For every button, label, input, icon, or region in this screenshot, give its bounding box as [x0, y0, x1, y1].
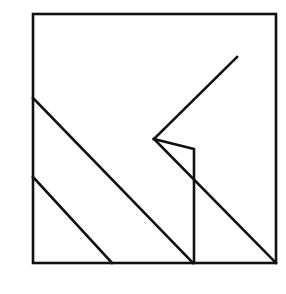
arrow-lower-diagonal — [154, 139, 276, 263]
geometric-figure — [0, 0, 286, 294]
line-segments — [33, 57, 276, 263]
lower-left-diagonal — [33, 177, 112, 263]
arrow-upper-arm — [154, 57, 237, 139]
